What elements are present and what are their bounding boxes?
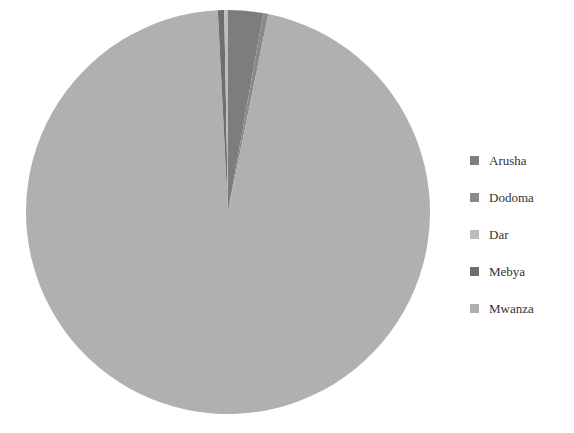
legend-swatch-mwanza xyxy=(470,304,479,313)
legend-label: Mwanza xyxy=(489,301,534,317)
legend-swatch-arusha xyxy=(470,156,479,165)
legend-swatch-mebya xyxy=(470,267,479,276)
legend: Arusha Dodoma Dar Mebya Mwanza xyxy=(470,142,534,327)
legend-label: Dar xyxy=(489,227,509,243)
legend-label: Dodoma xyxy=(489,190,534,206)
legend-item-mebya: Mebya xyxy=(470,253,534,290)
legend-item-arusha: Arusha xyxy=(470,142,534,179)
legend-swatch-dodoma xyxy=(470,193,479,202)
legend-label: Mebya xyxy=(489,264,525,280)
legend-label: Arusha xyxy=(489,153,527,169)
legend-item-dodoma: Dodoma xyxy=(470,179,534,216)
legend-item-mwanza: Mwanza xyxy=(470,290,534,327)
legend-swatch-dar xyxy=(470,230,479,239)
legend-item-dar: Dar xyxy=(470,216,534,253)
